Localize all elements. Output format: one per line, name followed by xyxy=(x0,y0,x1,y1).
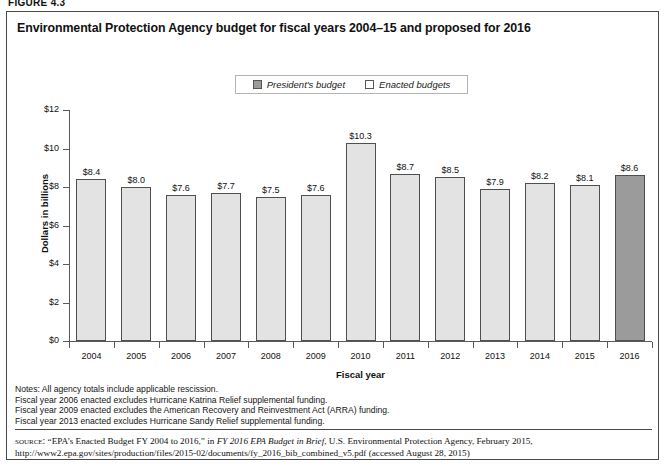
bar-2004 xyxy=(76,179,106,341)
y-axis-tick xyxy=(63,110,70,111)
bar-value-label-2005: $8.0 xyxy=(114,175,158,185)
y-axis-tick-label: $0 xyxy=(29,335,59,345)
x-axis-tick xyxy=(159,342,160,348)
x-axis-tick xyxy=(607,342,608,348)
x-axis-tick-label-2005: 2005 xyxy=(114,351,158,361)
x-axis-tick xyxy=(562,342,563,348)
x-axis-tick-label-2012: 2012 xyxy=(428,351,472,361)
y-axis-tick-label: $12 xyxy=(29,104,59,114)
note-line-1: Notes: All agency totals include applica… xyxy=(15,384,635,395)
x-axis-tick-label-2009: 2009 xyxy=(294,351,338,361)
x-axis-tick-label-2011: 2011 xyxy=(383,351,427,361)
x-axis-tick xyxy=(473,342,474,348)
bar-2006 xyxy=(166,195,196,341)
x-axis-tick xyxy=(293,342,294,348)
x-axis-tick xyxy=(652,342,653,348)
bar-value-label-2007: $7.7 xyxy=(204,181,248,191)
y-axis-tick xyxy=(63,303,70,304)
source-keyword: source: xyxy=(15,435,45,446)
y-axis-tick xyxy=(63,149,70,150)
bar-value-label-2006: $7.6 xyxy=(159,183,203,193)
x-axis-tick xyxy=(204,342,205,348)
bar-value-label-2010: $10.3 xyxy=(339,131,383,141)
figure-notes: Notes: All agency totals include applica… xyxy=(15,384,635,426)
y-axis-tick xyxy=(63,264,70,265)
figure-source: source: “EPA’s Enacted Budget FY 2004 to… xyxy=(15,435,655,460)
bar-2007 xyxy=(211,193,241,341)
bar-value-label-2014: $8.2 xyxy=(518,171,562,181)
source-text-part1: “EPA’s Enacted Budget FY 2004 to 2016,” … xyxy=(45,436,216,446)
x-axis-tick-label-2015: 2015 xyxy=(563,351,607,361)
figure-frame: Environmental Protection Agency budget f… xyxy=(6,11,659,460)
y-axis-tick-label: $4 xyxy=(29,258,59,268)
x-axis-tick xyxy=(338,342,339,348)
bar-value-label-2011: $8.7 xyxy=(383,162,427,172)
figure-number-label: FIGURE 4.3 xyxy=(8,0,65,8)
x-axis-tick-label-2016: 2016 xyxy=(608,351,652,361)
source-divider xyxy=(15,429,652,430)
y-axis-tick-label: $10 xyxy=(29,143,59,153)
x-axis-line xyxy=(69,341,652,342)
bar-value-label-2015: $8.1 xyxy=(563,173,607,183)
bar-value-label-2009: $7.6 xyxy=(294,183,338,193)
y-axis-tick-label: $2 xyxy=(29,297,59,307)
y-axis-tick xyxy=(63,187,70,188)
source-publication-title: FY 2016 EPA Budget in Brief xyxy=(217,436,325,446)
x-axis-tick xyxy=(428,342,429,348)
x-axis-tick-label-2004: 2004 xyxy=(69,351,113,361)
bar-2005 xyxy=(121,187,151,341)
bar-2013 xyxy=(480,189,510,341)
note-line-3: Fiscal year 2009 enacted excludes the Am… xyxy=(15,405,635,416)
bar-2016 xyxy=(615,175,645,341)
x-axis-tick-label-2008: 2008 xyxy=(249,351,293,361)
bar-value-label-2012: $8.5 xyxy=(428,165,472,175)
bar-value-label-2004: $8.4 xyxy=(69,167,113,177)
x-axis-tick xyxy=(517,342,518,348)
y-axis-tick xyxy=(63,226,70,227)
note-line-4: Fiscal year 2013 enacted excludes Hurric… xyxy=(15,416,635,427)
bar-2008 xyxy=(256,197,286,341)
x-axis-tick xyxy=(69,342,70,348)
x-axis-tick-label-2007: 2007 xyxy=(204,351,248,361)
figure-page: FIGURE 4.3 Environmental Protection Agen… xyxy=(0,0,666,465)
y-axis-title: Dollars in billions xyxy=(39,159,50,269)
x-axis-tick-label-2014: 2014 xyxy=(518,351,562,361)
x-axis-tick xyxy=(383,342,384,348)
y-axis-tick-label: $8 xyxy=(29,181,59,191)
y-axis-tick-label: $6 xyxy=(29,220,59,230)
bar-2014 xyxy=(525,183,555,341)
x-axis-tick-label-2013: 2013 xyxy=(473,351,517,361)
x-axis-tick xyxy=(248,342,249,348)
bar-2015 xyxy=(570,185,600,341)
note-line-2: Fiscal year 2006 enacted excludes Hurric… xyxy=(15,395,635,406)
bar-value-label-2008: $7.5 xyxy=(249,185,293,195)
x-axis-tick xyxy=(114,342,115,348)
x-axis-tick-label-2010: 2010 xyxy=(339,351,383,361)
x-axis-tick-label-2006: 2006 xyxy=(159,351,203,361)
bar-2012 xyxy=(435,177,465,341)
bar-value-label-2013: $7.9 xyxy=(473,177,517,187)
x-axis-title: Fiscal year xyxy=(69,369,652,380)
bar-2011 xyxy=(390,174,420,341)
bar-2010 xyxy=(346,143,376,341)
bar-value-label-2016: $8.6 xyxy=(608,163,652,173)
bar-2009 xyxy=(301,195,331,341)
